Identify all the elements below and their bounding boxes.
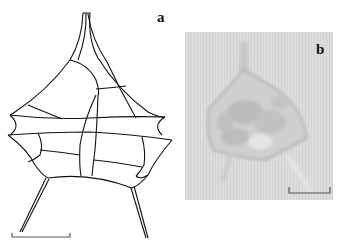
- panel-a-drawing: a: [0, 0, 180, 250]
- theca-drawing: [0, 0, 180, 250]
- panel-label-b: b: [316, 41, 324, 58]
- scale-bar-a: [12, 233, 70, 237]
- cell-micrograph: [185, 32, 333, 200]
- panel-b-micrograph: [185, 32, 333, 200]
- panel-label-a: a: [157, 9, 165, 26]
